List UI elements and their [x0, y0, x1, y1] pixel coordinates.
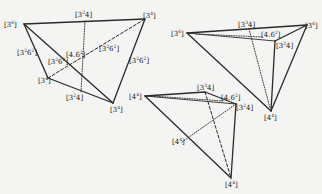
vertex-label: [44] — [129, 92, 142, 101]
edge-right — [271, 25, 307, 111]
vertex-label: [36] — [4, 20, 17, 29]
edge-dotted-inner — [182, 104, 236, 142]
edge-label: [4.62] — [221, 93, 241, 102]
vertex-label: [44] — [172, 137, 185, 146]
edge-label: [4.62] — [261, 30, 281, 39]
vertex-label: [34] — [143, 11, 156, 20]
tiling-vertex-diagrams: [36] [34] [34] [34] [324] [324] [3262] [… — [0, 0, 322, 194]
vertex-label: [44] — [225, 180, 238, 189]
edge-label: [334] — [197, 83, 215, 92]
edge-label: [3262] — [99, 44, 119, 53]
edge-dotted-back — [249, 29, 270, 108]
edge-label: [334] — [238, 20, 256, 29]
edge-label: [324] — [236, 103, 254, 112]
edge-top — [187, 25, 307, 33]
edge-dotted-top — [152, 96, 223, 101]
vertex-label: [36] — [171, 29, 184, 38]
edge-diagonal — [24, 24, 113, 103]
edge-top-left — [145, 92, 205, 96]
figure-lower-middle: [44] [44] [44] [334] [4.62] [324] — [129, 83, 254, 189]
vertex-label: [34] — [38, 76, 51, 85]
edge-label: [324] — [66, 93, 84, 102]
edge-label: [3262] — [129, 56, 149, 65]
vertex-label: [36] — [305, 21, 318, 30]
vertex-label: [44] — [264, 113, 277, 122]
edge-hidden — [48, 19, 145, 78]
edge-front-vertical — [271, 41, 275, 111]
edge-label: [324] — [75, 10, 93, 19]
vertex-label: [34] — [110, 105, 123, 114]
edge-label: [324] — [276, 41, 294, 50]
edge-label: [4.62] — [66, 50, 86, 59]
edge-label: [3262] — [17, 48, 37, 57]
edge-right — [231, 104, 236, 178]
